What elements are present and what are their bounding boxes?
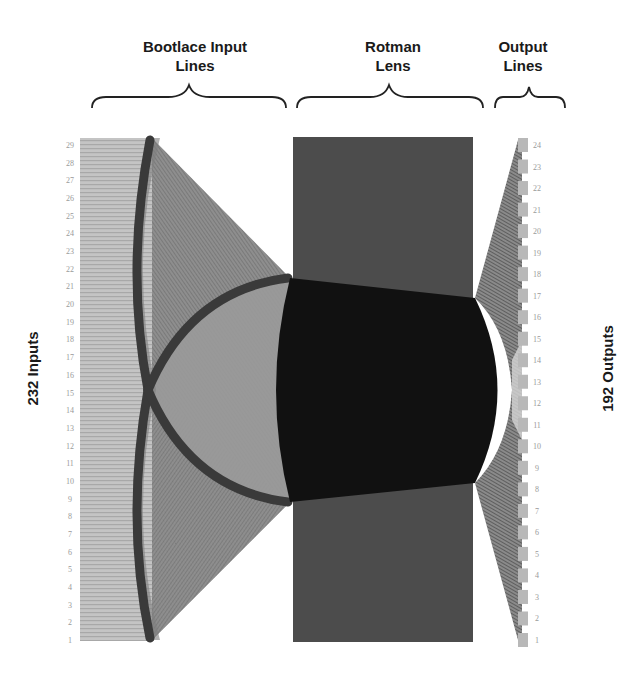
output-port-label: 20 (533, 227, 541, 236)
output-port-label: 7 (535, 507, 539, 516)
output-port (518, 633, 528, 647)
output-port (518, 525, 528, 539)
output-port (518, 590, 528, 604)
input-port-label: 17 (66, 353, 74, 362)
output-port-label: 8 (535, 485, 539, 494)
output-port-label: 22 (533, 184, 541, 193)
input-port-label: 1 (68, 636, 72, 645)
rotman-lens-body (276, 278, 498, 502)
rotman-lens-diagram: 2928272625242322212019181716151413121110… (0, 0, 639, 675)
output-port (518, 375, 528, 389)
output-port-label: 2 (535, 614, 539, 623)
rotman-brace (297, 85, 483, 108)
output-port (518, 439, 528, 453)
output-port (518, 160, 528, 174)
input-port-labels: 2928272625242322212019181716151413121110… (66, 141, 74, 645)
output-port-label: 5 (535, 550, 539, 559)
output-port-labels: 242322212019181716151413121110987654321 (533, 141, 541, 645)
output-port-label: 15 (533, 335, 541, 344)
input-port-label: 21 (66, 282, 74, 291)
bootlace-brace (92, 85, 286, 108)
output-port (518, 396, 528, 410)
output-port-label: 21 (533, 206, 541, 215)
output-port (518, 353, 528, 367)
output-port-label: 3 (535, 593, 539, 602)
output-port-label: 16 (533, 313, 541, 322)
input-port-label: 7 (68, 530, 72, 539)
output-port (518, 568, 528, 582)
input-port-label: 6 (68, 548, 72, 557)
output-port (518, 224, 528, 238)
input-port-label: 19 (66, 318, 74, 327)
output-port (518, 332, 528, 346)
input-port-label: 10 (66, 477, 74, 486)
output-port-label: 11 (533, 421, 541, 430)
input-port-label: 26 (66, 194, 74, 203)
input-port-label: 24 (66, 229, 74, 238)
output-port (518, 289, 528, 303)
input-port-label: 15 (66, 389, 74, 398)
output-port (518, 203, 528, 217)
input-port-label: 22 (66, 265, 74, 274)
input-port-label: 9 (68, 495, 72, 504)
output-port (518, 482, 528, 496)
output-port-label: 14 (533, 356, 541, 365)
output-port-label: 19 (533, 249, 541, 258)
input-port-label: 25 (66, 212, 74, 221)
output-port-label: 12 (533, 399, 541, 408)
output-port-label: 18 (533, 270, 541, 279)
output-port (518, 310, 528, 324)
input-port-label: 20 (66, 300, 74, 309)
output-port-label: 23 (533, 163, 541, 172)
input-port-label: 28 (66, 159, 74, 168)
input-port-label: 8 (68, 512, 72, 521)
input-port-label: 16 (66, 371, 74, 380)
input-port-label: 13 (66, 424, 74, 433)
output-port-label: 4 (535, 571, 539, 580)
output-port-label: 10 (533, 442, 541, 451)
output-port-label: 17 (533, 292, 541, 301)
output-port (518, 611, 528, 625)
input-port-label: 11 (66, 459, 74, 468)
input-port-label: 5 (68, 565, 72, 574)
input-port-label: 4 (68, 583, 72, 592)
input-port-label: 18 (66, 335, 74, 344)
output-port-label: 13 (533, 378, 541, 387)
input-port-label: 12 (66, 442, 74, 451)
input-port-label: 23 (66, 247, 74, 256)
input-port-label: 29 (66, 141, 74, 150)
output-port (518, 504, 528, 518)
output-brace (495, 87, 565, 108)
output-port (518, 547, 528, 561)
output-port (518, 461, 528, 475)
output-port (518, 138, 528, 152)
input-port-label: 2 (68, 618, 72, 627)
output-port (518, 246, 528, 260)
output-port-label: 9 (535, 464, 539, 473)
output-port (518, 181, 528, 195)
input-port-label: 27 (66, 176, 74, 185)
output-port (518, 418, 528, 432)
output-port (518, 267, 528, 281)
output-port-label: 6 (535, 528, 539, 537)
output-port-label: 1 (535, 636, 539, 645)
input-port-label: 14 (66, 406, 74, 415)
input-port-label: 3 (68, 601, 72, 610)
output-port-label: 24 (533, 141, 541, 150)
